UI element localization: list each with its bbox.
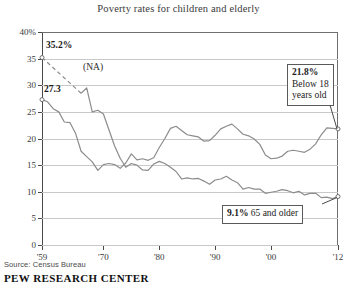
leader-65-and-older [322,198,337,204]
footer-divider [0,270,357,271]
source-note: Source: Census Bureau [4,260,86,269]
leader-below-18 [330,105,337,129]
callout-leader-lines [0,0,357,291]
brand-wordmark: PEW RESEARCH CENTER [4,272,149,284]
poverty-rates-chart: Poverty rates for children and elderly 4… [0,0,357,291]
